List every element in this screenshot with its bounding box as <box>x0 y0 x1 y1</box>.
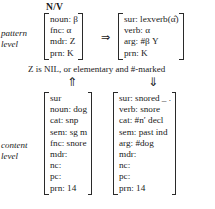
matrix-row: mdr: <box>50 149 87 160</box>
pattern-right-matrix: sur: lexverb(α̂) verb: α arg: #β Y prn: … <box>118 13 184 60</box>
matrix-row: prn: K <box>50 48 78 59</box>
up-arrow-icon: ⇑ <box>67 76 77 88</box>
matrix-row: prn: 14 <box>119 183 171 194</box>
content-left-matrix: sur noun: dog cat: snp sem: sg m fnc: sn… <box>44 92 92 195</box>
matrix-row: verb: snore <box>119 104 171 115</box>
matrix-row: mdr: <box>119 149 171 160</box>
matrix-row: sur <box>50 93 87 104</box>
matrix-row: pc: <box>119 171 171 182</box>
matrix-row: sem: sg m <box>50 127 87 138</box>
content-right-matrix: sur: snored _ . verb: snore cat: #n′ dec… <box>113 92 176 195</box>
pattern-level-label-line2: level <box>1 39 18 49</box>
condition-text: Z is NIL, or elementary and #-marked <box>28 64 165 74</box>
matrix-row: fnc: snore <box>50 138 87 149</box>
pattern-level-label: pattern level <box>1 28 27 49</box>
matrix-row: arg: #dog <box>119 138 171 149</box>
matrix-row: arg: #β Y <box>124 36 179 47</box>
matrix-row: mdr: Z <box>50 36 78 47</box>
matrix-row: sur: lexverb(α̂) <box>124 14 179 25</box>
matrix-row: verb: α <box>124 25 179 36</box>
matrix-row: noun: dog <box>50 104 87 115</box>
lexical-rule-diagram: N/V pattern level noun: β fnc: α mdr: Z … <box>0 0 215 209</box>
content-level-label-line1: content <box>1 140 28 150</box>
matrix-row: sem: past ind <box>119 127 171 138</box>
matrix-row: cat: snp <box>50 115 87 126</box>
matrix-row: prn: 14 <box>50 183 87 194</box>
content-level-label: content level <box>1 140 28 161</box>
down-arrow-icon: ⇓ <box>148 76 158 88</box>
matrix-row: cat: #n′ decl <box>119 115 171 126</box>
matrix-row: noun: β <box>50 14 78 25</box>
implies-arrow-icon: ⇒ <box>101 32 110 43</box>
matrix-row: nc: <box>119 160 171 171</box>
pattern-level-label-line1: pattern <box>1 28 27 38</box>
matrix-row: fnc: α <box>50 25 78 36</box>
content-level-label-line2: level <box>1 151 18 161</box>
matrix-row: pc: <box>50 171 87 182</box>
matrix-row: prn: K <box>124 48 179 59</box>
category-header: N/V <box>46 1 63 12</box>
matrix-row: nc: <box>50 160 87 171</box>
matrix-row: sur: snored _ . <box>119 93 171 104</box>
pattern-left-matrix: noun: β fnc: α mdr: Z prn: K <box>44 13 83 60</box>
